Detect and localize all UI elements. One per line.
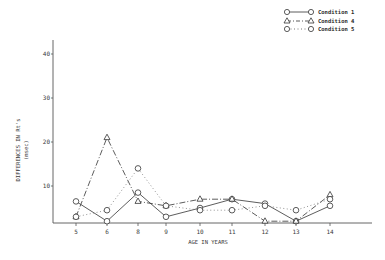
x-tick-label: 12 <box>261 228 269 235</box>
circle-marker-icon <box>135 190 141 196</box>
x-axis-title: AGE IN YEARS <box>188 239 228 245</box>
x-tick-label: 6 <box>105 228 109 235</box>
y-axis-ticks: 10203040 <box>43 50 53 189</box>
triangle-marker-icon <box>197 196 203 201</box>
legend: Condition 1 Condition 4 Condition 5 <box>284 9 355 32</box>
x-tick-label: 14 <box>326 228 334 235</box>
circle-marker-icon <box>308 26 313 31</box>
svg-text:DIFFERENCES IN Rt's: DIFFERENCES IN Rt's <box>15 119 21 182</box>
circle-marker-icon <box>163 203 169 209</box>
x-tick-label: 8 <box>136 228 140 235</box>
x-tick-label: 9 <box>164 228 168 235</box>
y-tick-label: 20 <box>43 138 51 145</box>
circle-marker-icon <box>163 214 169 220</box>
y-tick-label: 10 <box>43 182 51 189</box>
circle-marker-icon <box>104 207 110 213</box>
y-tick-label: 30 <box>43 94 51 101</box>
series-condition-1 <box>73 190 333 224</box>
circle-marker-icon <box>327 203 333 209</box>
plot-area <box>73 134 333 224</box>
circle-marker-icon <box>73 199 79 205</box>
legend-item-condition-5: Condition 5 <box>284 26 354 32</box>
series-condition-5 <box>73 166 333 220</box>
circle-marker-icon <box>284 9 289 14</box>
triangle-marker-icon <box>262 218 268 223</box>
triangle-marker-icon <box>104 134 110 139</box>
y-axis-title: DIFFERENCES IN Rt's (msec) <box>15 119 29 182</box>
x-tick-label: 13 <box>292 228 300 235</box>
circle-marker-icon <box>327 196 333 202</box>
line-chart: 10203040 56891011121314 AGE IN YEARS DIF… <box>0 0 385 260</box>
svg-text:Condition 4: Condition 4 <box>318 18 355 24</box>
triangle-marker-icon <box>135 198 141 203</box>
circle-marker-icon <box>229 207 235 213</box>
svg-text:(msec): (msec) <box>23 140 29 160</box>
y-tick-label: 40 <box>43 50 51 57</box>
circle-marker-icon <box>308 9 313 14</box>
triangle-marker-icon <box>308 18 314 23</box>
x-tick-label: 11 <box>228 228 236 235</box>
circle-marker-icon <box>197 207 203 213</box>
x-tick-label: 5 <box>74 228 78 235</box>
circle-marker-icon <box>104 218 110 224</box>
svg-text:Condition 5: Condition 5 <box>318 26 354 32</box>
circle-marker-icon <box>262 203 268 209</box>
x-axis-ticks: 56891011121314 <box>74 223 334 235</box>
legend-item-condition-4: Condition 4 <box>284 18 355 24</box>
triangle-marker-icon <box>284 18 290 23</box>
x-tick-label: 10 <box>196 228 204 235</box>
triangle-marker-icon <box>327 191 333 196</box>
svg-text:Condition 1: Condition 1 <box>318 9 355 15</box>
legend-item-condition-1: Condition 1 <box>284 9 355 15</box>
circle-marker-icon <box>293 207 299 213</box>
circle-marker-icon <box>73 214 79 220</box>
circle-marker-icon <box>135 166 141 172</box>
circle-marker-icon <box>284 26 289 31</box>
